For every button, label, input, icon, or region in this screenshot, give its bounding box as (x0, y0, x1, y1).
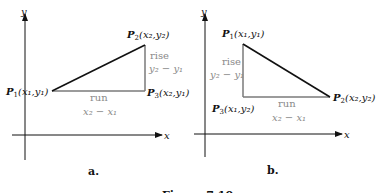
figure-7-10: y x P1(x₁,y₁) P2(x₂,y₂) P3(x₂,y₁) rise y… (0, 0, 383, 193)
point-p1: P1(x₁,y₁) (5, 86, 48, 99)
point-p1: P1(x₁,y₁) (221, 28, 264, 41)
run-label: run (278, 98, 296, 109)
point-p3: P3(x₂,y₁) (146, 87, 189, 100)
rise-label: rise (222, 56, 241, 67)
y-axis-label: y (20, 6, 27, 17)
x-axis-label: x (344, 129, 350, 140)
panel-a-label: a. (88, 165, 99, 178)
y-axis-label: y (200, 6, 207, 17)
point-p3: P3(x₁,y₂) (211, 103, 254, 116)
point-p2: P2(x₂,y₂) (126, 29, 169, 42)
x-axis-label: x (164, 130, 170, 141)
point-p2: P2(x₂,y₂) (332, 92, 375, 105)
run-expression: x₂ − x₁ (83, 106, 117, 117)
rise-expression: y₂ − y₁ (209, 69, 244, 80)
run-label: run (90, 92, 108, 103)
rise-expression: y₂ − y₁ (148, 63, 183, 74)
panel-b-label: b. (267, 164, 279, 177)
hypotenuse (243, 44, 330, 97)
panel-b: y x P1(x₁,y₁) P2(x₂,y₂) P3(x₁,y₂) rise y… (194, 6, 375, 177)
panel-a: y x P1(x₁,y₁) P2(x₂,y₂) P3(x₂,y₁) rise y… (5, 6, 189, 178)
figure-caption: Figure 7.10 (162, 189, 233, 193)
run-expression: x₂ − x₁ (272, 112, 306, 123)
hypotenuse (52, 45, 145, 91)
rise-label: rise (150, 50, 169, 61)
